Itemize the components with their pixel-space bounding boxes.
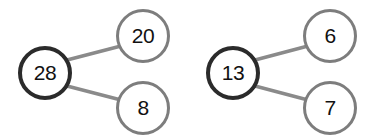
connector-28-to-8 — [67, 86, 121, 100]
part-circle-6[interactable] — [305, 11, 356, 62]
connector-28-to-20 — [67, 46, 121, 60]
connector-lines — [67, 46, 308, 100]
connector-13-to-7 — [255, 86, 308, 100]
bond-right-group — [208, 11, 356, 134]
whole-circle-28[interactable] — [20, 48, 70, 98]
part-circle-7[interactable] — [305, 83, 356, 134]
number-bond-graphics — [0, 0, 380, 140]
whole-circle-13[interactable] — [208, 48, 258, 98]
connector-13-to-6 — [255, 46, 308, 60]
number-bond-canvas: 28 20 8 13 6 7 — [0, 0, 380, 140]
bond-left-group — [20, 11, 169, 134]
part-circle-20[interactable] — [118, 11, 169, 62]
part-circle-8[interactable] — [118, 83, 169, 134]
